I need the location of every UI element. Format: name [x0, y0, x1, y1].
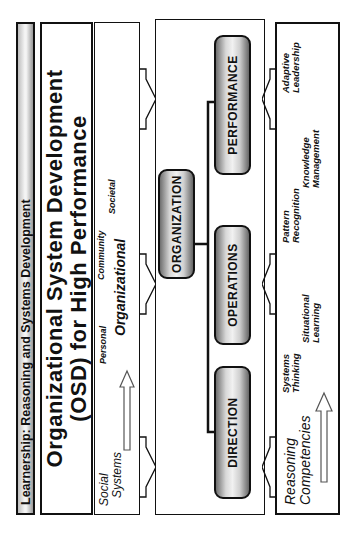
hierarchy-connectors — [156, 18, 266, 514]
competency-situational-learning: SituationalLearning — [301, 294, 321, 343]
arrow-right-icon — [315, 391, 333, 483]
title-box: Organizational System Development (OSD) … — [40, 22, 93, 515]
competency-knowledge-management: KnowledgeManagement — [301, 130, 321, 188]
competency-adaptive-leadership: AdaptiveLeadership — [281, 42, 301, 93]
competency-pattern-recognition: PatternRecognition — [281, 188, 301, 243]
reasoning-label-line-1: Reasoning — [282, 438, 298, 505]
social-label-line-2: Systems — [110, 452, 124, 506]
social-systems-panel: Social Systems Personal Organizational C… — [94, 22, 140, 515]
osd-diagram: Learnership: Reasoning and Systems Devel… — [0, 0, 359, 542]
title-line-2: (OSD) for High Performance — [67, 115, 90, 421]
banner-title: Learnership: Reasoning and Systems Devel… — [19, 199, 33, 505]
social-systems-label: Social Systems — [98, 452, 123, 506]
competency-systems-thinking: SystemsThinking — [281, 353, 301, 393]
title-line-1: Organizational System Development — [43, 70, 66, 468]
osd-center-box: DIRECTION OPERATIONS PERFORMANCE ORGANIZ… — [155, 19, 265, 515]
level-organizational: Organizational — [112, 239, 128, 336]
reasoning-label: Reasoning Competencies — [283, 416, 314, 506]
reasoning-competencies-panel: Reasoning Competencies SystemsThinking S… — [275, 22, 340, 515]
banner: Learnership: Reasoning and Systems Devel… — [16, 22, 35, 515]
arrow-right-icon — [119, 369, 135, 451]
reasoning-label-line-2: Competencies — [297, 416, 313, 506]
level-community: Community — [96, 231, 106, 281]
social-label-line-1: Social — [97, 473, 111, 506]
level-societal: Societal — [107, 179, 117, 214]
level-personal: Personal — [98, 326, 108, 364]
